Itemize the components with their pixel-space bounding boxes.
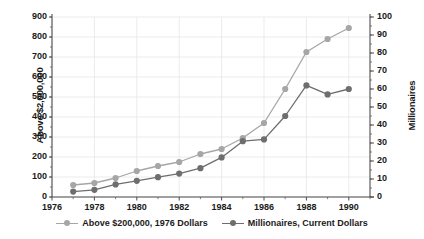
x-axis-tick: 1980 (117, 202, 157, 212)
data-point (113, 175, 119, 181)
y-axis-right-tick: 20 (377, 155, 411, 165)
data-point (70, 182, 76, 188)
data-point (261, 120, 267, 126)
y-axis-right-tick: 30 (377, 137, 411, 147)
legend-marker-light (56, 219, 78, 228)
data-point (176, 159, 182, 165)
x-axis-tick: 1990 (329, 202, 369, 212)
data-point (240, 138, 246, 144)
y-axis-right-tick: 100 (377, 11, 411, 21)
data-point (134, 178, 140, 184)
x-axis-tick: 1982 (159, 202, 199, 212)
y-axis-right-tick: 50 (377, 101, 411, 111)
x-axis-tick: 1988 (286, 202, 326, 212)
data-point (219, 154, 225, 160)
legend-label-dark: Millionaires, Current Dollars (248, 218, 368, 228)
chart-container: Above $2,000,000 Millionaires 0100200300… (0, 0, 424, 239)
y-axis-left-tick: 600 (13, 71, 47, 81)
y-axis-left-tick: 100 (13, 171, 47, 181)
data-point (91, 180, 97, 186)
data-point (134, 168, 140, 174)
y-axis-left-tick: 400 (13, 111, 47, 121)
data-point (282, 86, 288, 92)
legend-marker-dark (222, 219, 244, 228)
y-axis-left-tick: 200 (13, 151, 47, 161)
data-point (325, 91, 331, 97)
y-axis-right-tick: 70 (377, 65, 411, 75)
x-axis-tick: 1978 (74, 202, 114, 212)
data-point (176, 171, 182, 177)
legend-label-light: Above $200,000, 1976 Dollars (82, 218, 208, 228)
data-point (219, 146, 225, 152)
x-axis-tick: 1984 (202, 202, 242, 212)
legend-item-millionaires: Millionaires, Current Dollars (222, 218, 368, 228)
legend-item-above-200000: Above $200,000, 1976 Dollars (56, 218, 208, 228)
data-point (155, 163, 161, 169)
data-point (261, 136, 267, 142)
x-axis-tick: 1976 (32, 202, 72, 212)
data-point (303, 82, 309, 88)
y-axis-left-tick: 800 (13, 31, 47, 41)
data-point (303, 49, 309, 55)
data-point (113, 181, 119, 187)
y-axis-right-tick: 10 (377, 173, 411, 183)
y-axis-right-tick: 60 (377, 83, 411, 93)
data-point (155, 174, 161, 180)
series-lines (70, 25, 352, 195)
data-point (197, 151, 203, 157)
data-point (70, 189, 76, 195)
y-axis-left-tick: 700 (13, 51, 47, 61)
y-axis-left-tick: 0 (13, 191, 47, 201)
axis-lines (49, 14, 374, 201)
chart-legend: Above $200,000, 1976 Dollars Millionaire… (0, 218, 424, 228)
data-point (325, 36, 331, 42)
y-axis-right-tick: 80 (377, 47, 411, 57)
data-point (197, 165, 203, 171)
y-axis-right-tick: 0 (377, 191, 411, 201)
y-axis-left-tick: 500 (13, 91, 47, 101)
y-axis-right-tick: 40 (377, 119, 411, 129)
data-point (346, 86, 352, 92)
data-point (91, 187, 97, 193)
data-point (346, 25, 352, 31)
y-axis-left-tick: 900 (13, 11, 47, 21)
y-axis-right-tick: 90 (377, 29, 411, 39)
grid-lines (52, 17, 370, 197)
y-axis-left-tick: 300 (13, 131, 47, 141)
x-axis-tick: 1986 (244, 202, 284, 212)
data-point (282, 113, 288, 119)
